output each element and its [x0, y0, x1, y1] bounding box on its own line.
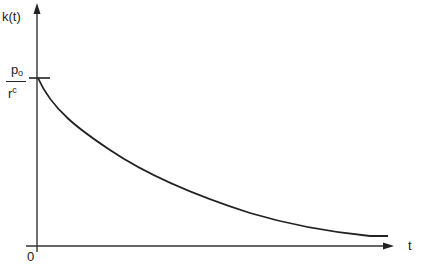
- origin-label: 0: [27, 250, 34, 263]
- y-tick-denominator: rc: [8, 86, 17, 100]
- y-axis-arrow-icon: [34, 3, 41, 14]
- x-axis-arrow-icon: [383, 243, 394, 250]
- y-tick-fraction-bar: [6, 81, 26, 82]
- chart-canvas: [0, 0, 422, 267]
- y-tick-label: po: [6, 63, 28, 78]
- x-axis-label: t: [408, 239, 412, 252]
- y-tick-numerator: po: [11, 62, 23, 77]
- y-axis-label: k(t): [2, 10, 21, 23]
- k-curve: [38, 78, 388, 236]
